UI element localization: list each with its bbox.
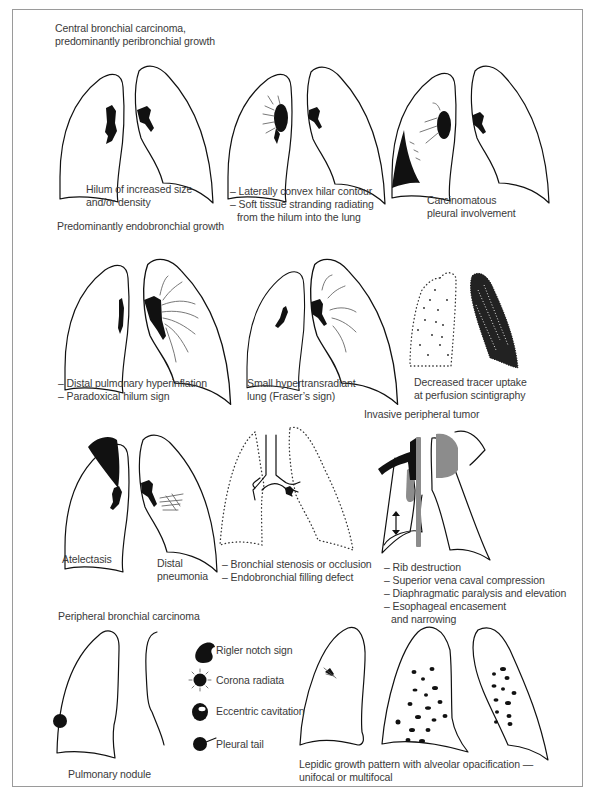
bronchogram-lungs	[220, 427, 353, 550]
pneumonia-caption: Distal pneumonia	[157, 557, 208, 583]
pleural-lungs	[392, 66, 549, 203]
hyperinflation-caption: – Distal pulmonary hyperinflation – Para…	[58, 377, 207, 403]
hilar-contour-caption: – Laterally convex hilar contour – Soft …	[230, 185, 374, 224]
eccentric-cavitation-icon	[192, 703, 208, 721]
peripheral-carcinoma-title: Peripheral bronchial carcinoma	[58, 610, 200, 623]
hilar-contour-lungs	[228, 67, 385, 204]
eccentric-cavitation-label: Eccentric cavitation	[216, 705, 304, 718]
pleural-tail-icon	[193, 737, 216, 751]
corona-radiata-icon	[189, 669, 211, 691]
nodule-lungs	[53, 631, 164, 758]
scintigraphy-caption: Decreased tracer uptake at perfusion sci…	[414, 376, 527, 402]
lepidic-caption: Lepidic growth pattern with alveolar opa…	[299, 758, 533, 784]
hilum-caption: Hilum of increased size and/or density	[86, 183, 192, 209]
nodule-signs	[189, 642, 216, 751]
rigler-notch-label: Rigler notch sign	[216, 644, 293, 657]
invasive-tumor-lungs	[378, 431, 490, 560]
pleural-caption: Carcinomatous pleural involvement	[427, 194, 516, 220]
atelectasis-caption: Atelectasis	[62, 553, 112, 566]
nodule-caption: Pulmonary nodule	[68, 768, 151, 781]
pleural-tail-label: Pleural tail	[216, 738, 264, 751]
lepidic-lungs	[300, 627, 548, 760]
scintigraphy-lungs	[410, 273, 518, 368]
dense-uptake	[471, 273, 519, 368]
rigler-notch-icon	[195, 642, 215, 663]
invasive-tumor-title: Invasive peripheral tumor	[364, 408, 479, 421]
fraser-caption: Small hypertransradiant lung (Fraser’s s…	[247, 377, 356, 403]
central-carcinoma-title: Central bronchial carcinoma, predominant…	[55, 22, 215, 48]
endobronchial-title: Predominantly endobronchial growth	[57, 220, 224, 233]
atelectasis-lungs	[65, 435, 217, 572]
corona-radiata-label: Corona radiata	[216, 674, 284, 687]
invasive-caption: – Rib destruction – Superior vena caval …	[384, 561, 566, 626]
bronchial-caption: – Bronchial stenosis or occlusion – Endo…	[222, 558, 372, 584]
